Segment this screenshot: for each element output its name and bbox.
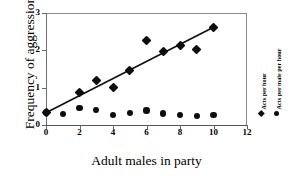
x-tick-label: 12	[237, 128, 257, 137]
y-tick-label: 1	[26, 83, 40, 92]
chart-legend: Acts per hour Acts per male per hour	[255, 8, 291, 138]
x-tick-mark	[113, 125, 114, 129]
y-tick-label: 2	[26, 45, 40, 54]
x-tick-label: 8	[170, 128, 190, 137]
scatter-chart-figure: Frequency of aggression 0123 024681012 A…	[0, 0, 291, 176]
legend-circle-marker-icon	[274, 111, 279, 116]
legend-item-acts-per-male-per-hour: Acts per male per hour	[270, 8, 286, 138]
x-tick-mark	[80, 125, 81, 129]
x-tick-mark	[247, 125, 248, 129]
y-tick-mark	[42, 88, 46, 89]
legend-label: Acts per male per hour	[275, 18, 282, 110]
legend-item-acts-per-hour: Acts per hour	[255, 8, 271, 138]
data-point	[76, 105, 82, 111]
data-point	[143, 107, 149, 113]
x-tick-mark	[180, 125, 181, 129]
legend-label: Acts per hour	[260, 18, 267, 110]
x-tick-label: 0	[36, 128, 56, 137]
y-tick-label: 3	[26, 8, 40, 17]
x-tick-label: 2	[70, 128, 90, 137]
x-tick-mark	[147, 125, 148, 129]
data-point	[160, 110, 166, 116]
x-tick-label: 6	[137, 128, 157, 137]
x-tick-mark	[46, 125, 47, 129]
x-tick-label: 10	[204, 128, 224, 137]
y-tick-mark	[42, 13, 46, 14]
data-point	[43, 109, 49, 115]
data-point	[210, 112, 216, 118]
legend-diamond-marker-icon	[258, 110, 264, 116]
x-tick-label: 4	[103, 128, 123, 137]
x-axis-title: Adult males in party	[46, 153, 247, 169]
x-tick-mark	[214, 125, 215, 129]
y-tick-mark	[42, 50, 46, 51]
